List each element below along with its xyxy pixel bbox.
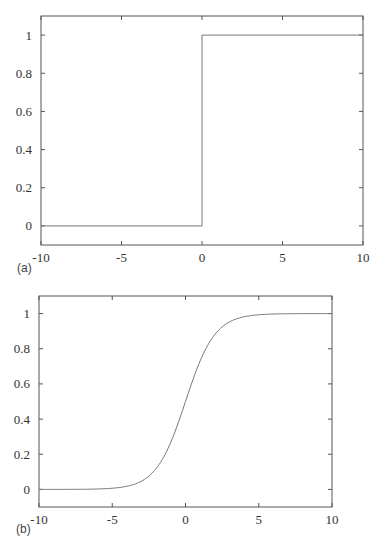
x-tick-label: -5 <box>116 250 127 265</box>
chart-panel-a: -10-5051000.20.40.60.81(a) <box>16 16 370 275</box>
data-line <box>39 314 332 490</box>
x-tick-label: 10 <box>326 512 339 527</box>
x-tick-label: 5 <box>256 512 263 527</box>
y-tick-label: 0.8 <box>14 341 30 356</box>
y-tick-label: 0.6 <box>16 104 33 119</box>
y-tick-label: 0.2 <box>14 447 30 462</box>
y-tick-label: 0.6 <box>14 376 31 391</box>
y-tick-label: 0.8 <box>16 66 32 81</box>
y-tick-label: 0.4 <box>16 142 33 157</box>
panel-label: (a) <box>17 261 32 275</box>
y-tick-label: 0 <box>24 482 31 497</box>
x-tick-label: -5 <box>107 512 118 527</box>
x-tick-label: 0 <box>182 512 189 527</box>
y-tick-label: 0.2 <box>16 180 32 195</box>
x-tick-label: 5 <box>279 250 286 265</box>
data-line <box>41 35 363 226</box>
y-tick-label: 1 <box>26 28 33 43</box>
x-tick-label: -10 <box>32 250 49 265</box>
x-tick-label: 10 <box>357 250 370 265</box>
figure: -10-5051000.20.40.60.81(a) -10-5051000.2… <box>0 0 385 550</box>
y-tick-label: 1 <box>24 306 31 321</box>
panel-label: (b) <box>16 522 31 536</box>
chart-panel-b: -10-5051000.20.40.60.81(b) <box>14 296 339 536</box>
y-tick-label: 0 <box>26 218 33 233</box>
x-tick-label: 0 <box>199 250 206 265</box>
x-tick-label: -10 <box>30 512 47 527</box>
y-tick-label: 0.4 <box>14 412 31 427</box>
